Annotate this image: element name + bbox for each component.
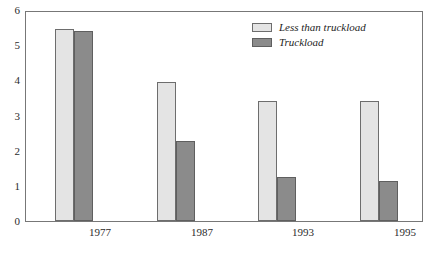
x-tick-label-1987: 1987	[172, 226, 232, 238]
bar-1993-less-than-truckload	[258, 101, 277, 221]
legend-swatch-icon-dark	[252, 38, 272, 47]
legend-item-less-than-truckload: Less than truckload	[252, 20, 392, 35]
y-tick-label-5: 5	[4, 40, 20, 51]
bar-1993-truckload	[277, 177, 296, 221]
y-tick-label-6: 6	[4, 5, 20, 16]
bar-1977-truckload	[74, 31, 93, 221]
y-tick-label-4: 4	[4, 75, 20, 86]
bar-1995-less-than-truckload	[360, 101, 379, 221]
x-axis: 1977 1987 1993 1995	[25, 226, 423, 248]
x-tick-label-1977: 1977	[70, 226, 130, 238]
y-tick-label-0: 0	[4, 216, 20, 227]
y-tick-label-3: 3	[4, 111, 20, 122]
bar-1977-less-than-truckload	[55, 29, 74, 221]
legend-swatch-icon-light	[252, 23, 272, 32]
y-axis: 6 5 4 3 2 1 0	[0, 0, 25, 255]
bar-chart: 6 5 4 3 2 1 0 1977 1987 1993 1995 Less t…	[0, 0, 434, 255]
x-tick-label-1995: 1995	[375, 226, 434, 238]
legend-item-truckload: Truckload	[252, 35, 392, 50]
y-tick-label-1: 1	[4, 181, 20, 192]
bar-1987-less-than-truckload	[157, 82, 176, 221]
legend: Less than truckload Truckload	[252, 20, 392, 50]
bar-1987-truckload	[176, 141, 195, 221]
legend-label-truckload: Truckload	[279, 37, 324, 48]
bar-1995-truckload	[379, 181, 398, 221]
x-tick-label-1993: 1993	[273, 226, 333, 238]
legend-label-less-than-truckload: Less than truckload	[279, 22, 366, 33]
y-tick-label-2: 2	[4, 146, 20, 157]
